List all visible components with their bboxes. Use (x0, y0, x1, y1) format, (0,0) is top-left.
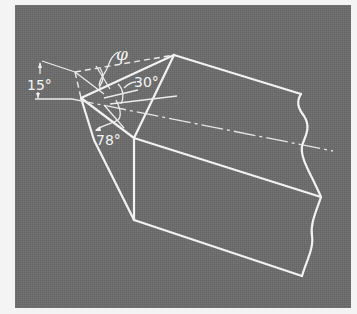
top-back-edge (174, 55, 301, 94)
label-15deg: 15° (27, 77, 52, 93)
bottom-edge (134, 220, 302, 276)
dim-upper-extension (42, 61, 75, 72)
dimension-phi: φ (99, 44, 128, 88)
cutting-tool-diagram: 15° φ 30° 78° (0, 0, 357, 314)
label-30deg: 30° (134, 74, 159, 90)
end-flank-edge (81, 98, 134, 220)
break-line-lower (302, 197, 321, 276)
arrowhead-down-icon (36, 93, 40, 98)
arrowhead-up-icon (38, 62, 42, 68)
horizontal-reference (110, 96, 177, 104)
label-phi: φ (116, 44, 128, 64)
construction-cross (104, 90, 138, 98)
dimension-15deg: 15° (27, 61, 75, 99)
break-line-upper (298, 94, 321, 197)
arrowhead-icon (95, 126, 101, 131)
middle-long-edge (134, 138, 321, 197)
construction-lines (75, 55, 177, 128)
tool-body (81, 55, 321, 276)
label-78deg: 78° (96, 132, 121, 148)
